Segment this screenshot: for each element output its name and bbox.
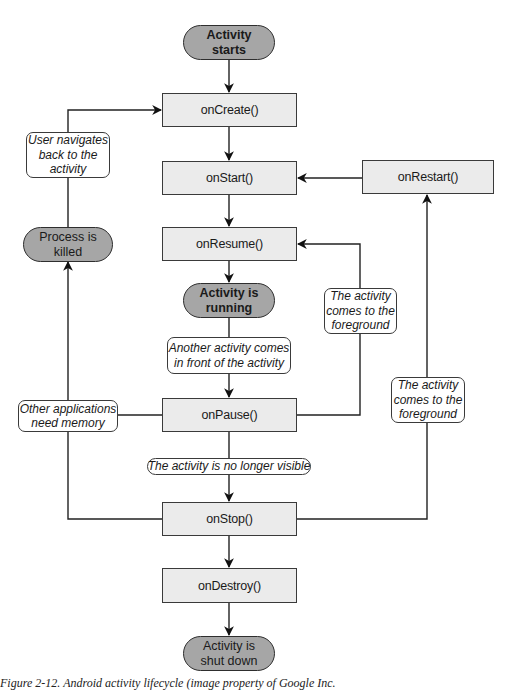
state-label-line1: Activity is xyxy=(203,639,255,654)
label-line: The activity xyxy=(330,289,391,304)
label-line: Another activity comes xyxy=(169,341,290,356)
label-line: foreground xyxy=(399,407,457,422)
state-label-line1: Process is xyxy=(39,230,97,245)
caption-text: Android activity lifecycle (image proper… xyxy=(63,676,335,690)
label-line: The activity xyxy=(398,378,459,393)
state-label-line1: Activity is xyxy=(199,286,258,301)
state-label-line2: shut down xyxy=(201,654,258,669)
state-activity-starts: Activity starts xyxy=(183,25,275,60)
label-foreground-restart: The activity comes to the foreground xyxy=(391,377,465,423)
figure-caption: Figure 2-12. Android activity lifecycle … xyxy=(0,676,336,691)
state-label-line2: running xyxy=(206,301,253,316)
label-line: foreground xyxy=(331,318,389,333)
label-line: comes to the xyxy=(394,393,463,408)
method-on-resume: onResume() xyxy=(162,227,297,261)
label-line: activity xyxy=(50,162,87,177)
label-line: in front of the activity xyxy=(174,356,284,371)
method-on-stop: onStop() xyxy=(162,502,297,536)
label-line: User navigates xyxy=(28,133,108,148)
method-on-restart: onRestart() xyxy=(362,160,494,194)
method-on-pause: onPause() xyxy=(162,398,297,432)
label-no-longer-visible: The activity is no longer visible xyxy=(147,458,311,475)
label-another-activity: Another activity comes in front of the a… xyxy=(167,337,291,374)
label-line: need memory xyxy=(31,416,104,431)
method-on-start: onStart() xyxy=(162,161,297,195)
state-label-line2: killed xyxy=(54,245,83,260)
state-activity-running: Activity is running xyxy=(183,283,275,318)
label-foreground-resume: The activity comes to the foreground xyxy=(324,288,397,334)
label-line: Other applications xyxy=(20,402,117,417)
method-on-destroy: onDestroy() xyxy=(162,568,297,603)
label-line: back to the xyxy=(39,148,98,163)
state-activity-shut-down: Activity is shut down xyxy=(183,636,275,671)
label-user-navigates-back: User navigates back to the activity xyxy=(26,132,110,178)
state-process-killed: Process is killed xyxy=(23,227,113,262)
label-other-apps-memory: Other applications need memory xyxy=(18,400,118,432)
caption-prefix: Figure 2-12. xyxy=(0,676,60,690)
state-label-line2: starts xyxy=(212,43,246,58)
state-label-line1: Activity xyxy=(206,28,251,43)
method-on-create: onCreate() xyxy=(162,93,297,127)
label-line: comes to the xyxy=(326,304,395,319)
